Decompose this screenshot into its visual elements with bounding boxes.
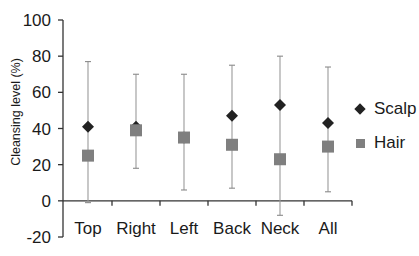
hair-point bbox=[274, 153, 286, 165]
x-category-label: Neck bbox=[261, 219, 300, 238]
legend-label: Scalp bbox=[374, 99, 417, 119]
y-tick-label: 60 bbox=[32, 83, 51, 102]
x-category-label: All bbox=[319, 219, 338, 238]
legend-item-scalp: Scalp bbox=[352, 92, 417, 126]
hair-point bbox=[322, 141, 334, 153]
square-marker-icon bbox=[352, 139, 368, 148]
error-bars bbox=[85, 56, 331, 215]
scalp-point bbox=[82, 121, 94, 133]
y-axis-label: Cleansing level (%) bbox=[9, 58, 23, 166]
legend-item-hair: Hair bbox=[352, 126, 417, 160]
y-axis: -20020406080100 bbox=[23, 11, 63, 247]
legend-label: Hair bbox=[374, 133, 405, 153]
y-tick-label: 100 bbox=[23, 11, 51, 30]
x-category-label: Top bbox=[74, 219, 101, 238]
scalp-point bbox=[226, 110, 238, 122]
y-tick-label: -20 bbox=[26, 228, 51, 247]
y-tick-label: 80 bbox=[32, 47, 51, 66]
hair-point bbox=[130, 124, 142, 136]
scalp-point bbox=[322, 117, 334, 129]
y-tick-label: 40 bbox=[32, 120, 51, 139]
x-category-label: Left bbox=[170, 219, 199, 238]
x-category-label: Back bbox=[213, 219, 251, 238]
y-tick-label: 0 bbox=[42, 192, 51, 211]
x-category-label: Right bbox=[116, 219, 156, 238]
x-axis: TopRightLeftBackNeckAll bbox=[63, 201, 352, 238]
hair-point bbox=[82, 150, 94, 162]
diamond-marker-icon bbox=[352, 105, 368, 113]
scalp-point bbox=[274, 99, 286, 111]
hair-point bbox=[226, 139, 238, 151]
data-points bbox=[82, 99, 334, 165]
hair-point bbox=[178, 132, 190, 144]
legend: Scalp Hair bbox=[352, 92, 417, 160]
y-tick-label: 20 bbox=[32, 156, 51, 175]
